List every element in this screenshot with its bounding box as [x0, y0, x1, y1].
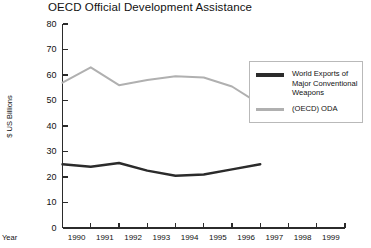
chart-figure: OECD Official Development Assistance $ U… — [0, 0, 371, 248]
legend-item-weapons: World Exports of Major Conventional Weap… — [256, 69, 362, 98]
legend-swatch-weapons — [256, 73, 284, 77]
series-line-oda — [63, 67, 261, 104]
legend-item-oda: (OECD) ODA — [256, 104, 338, 114]
axes — [63, 24, 346, 228]
legend-swatch-oda — [256, 108, 284, 111]
series-line-weapons — [63, 163, 261, 176]
legend-label-weapons: World Exports of Major Conventional Weap… — [292, 69, 362, 98]
legend-label-oda: (OECD) ODA — [292, 104, 338, 114]
data-series-group — [63, 67, 261, 175]
chart-legend: World Exports of Major Conventional Weap… — [249, 61, 363, 123]
plot-area — [0, 0, 371, 248]
